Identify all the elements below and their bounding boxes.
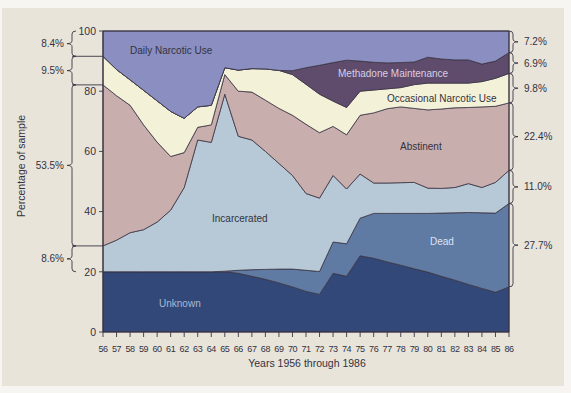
- x-tick-label: 84: [477, 344, 487, 354]
- x-tick-label: 64: [207, 344, 217, 354]
- x-tick-label: 66: [234, 344, 244, 354]
- right-bracket-label: 9.8%: [524, 83, 547, 94]
- y-tick-label: 100: [78, 25, 96, 37]
- y-tick-label: 80: [84, 85, 96, 97]
- x-tick-label: 58: [125, 344, 135, 354]
- right-bracket-label: 27.7%: [524, 240, 552, 251]
- x-tick-label: 82: [450, 344, 460, 354]
- x-tick-label: 75: [355, 344, 365, 354]
- right-bracket-label: 7.2%: [524, 36, 547, 47]
- x-tick-label: 57: [112, 344, 122, 354]
- label-methadone-maintenance: Methadone Maintenance: [338, 68, 449, 79]
- x-tick-label: 69: [274, 344, 284, 354]
- right-bracket-label: 22.4%: [524, 131, 552, 142]
- left-bracket-label: 8.4%: [41, 38, 64, 49]
- x-tick-label: 60: [152, 344, 162, 354]
- x-tick-label: 65: [220, 344, 230, 354]
- label-dead: Dead: [430, 236, 454, 247]
- x-tick-label: 72: [315, 344, 325, 354]
- x-tick-label: 85: [491, 344, 501, 354]
- x-tick-label: 86: [504, 344, 514, 354]
- x-tick-label: 67: [247, 344, 257, 354]
- x-tick-label: 77: [383, 344, 393, 354]
- x-tick-label: 71: [301, 344, 311, 354]
- label-abstinent: Abstinent: [400, 141, 442, 152]
- x-tick-label: 81: [437, 344, 447, 354]
- y-tick-label: 20: [84, 266, 96, 278]
- x-tick-label: 62: [180, 344, 190, 354]
- x-tick-label: 59: [139, 344, 149, 354]
- x-tick-label: 73: [328, 344, 338, 354]
- y-tick-label: 40: [84, 205, 96, 217]
- label-incarcerated: Incarcerated: [212, 213, 268, 224]
- left-bracket-label: 9.5%: [41, 65, 64, 76]
- y-tick-label: 60: [84, 145, 96, 157]
- label-unknown: Unknown: [159, 298, 201, 309]
- x-tick-label: 74: [342, 344, 352, 354]
- label-daily-narcotic-use: Daily Narcotic Use: [130, 45, 213, 56]
- stacked-area-chart: 5657585960616263646566676869707172737475…: [0, 0, 571, 393]
- x-tick-label: 61: [166, 344, 176, 354]
- x-tick-label: 78: [396, 344, 406, 354]
- y-axis-title: Percentage of sample: [15, 115, 27, 217]
- label-occasional-narcotic-use: Occasional Narcotic Use: [387, 93, 497, 104]
- left-bracket-label: 53.5%: [36, 160, 64, 171]
- x-tick-label: 63: [193, 344, 203, 354]
- left-bracket-label: 8.6%: [41, 253, 64, 264]
- area-layers: [103, 31, 509, 332]
- x-tick-label: 56: [98, 344, 108, 354]
- x-tick-label: 76: [369, 344, 379, 354]
- x-tick-label: 79: [410, 344, 420, 354]
- y-tick-label: 0: [90, 326, 96, 338]
- x-tick-label: 68: [261, 344, 271, 354]
- right-bracket-label: 11.0%: [524, 181, 552, 192]
- right-bracket-label: 6.9%: [524, 58, 547, 69]
- x-axis-title: Years 1956 through 1986: [248, 357, 366, 369]
- x-tick-label: 70: [288, 344, 298, 354]
- x-tick-label: 80: [423, 344, 433, 354]
- x-tick-label: 83: [464, 344, 474, 354]
